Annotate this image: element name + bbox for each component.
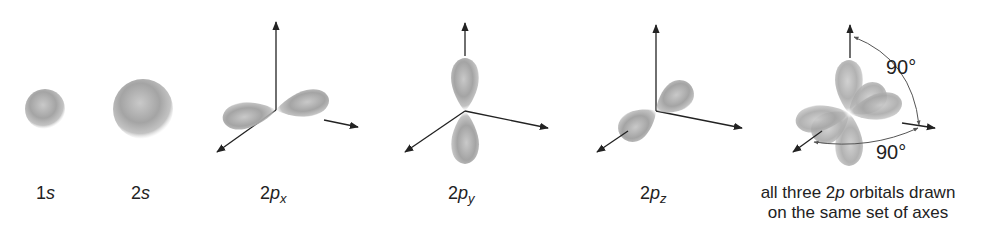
orbital-2py — [405, 23, 548, 164]
orbital-1s — [25, 89, 65, 129]
orbital-2s — [113, 79, 173, 139]
combined-caption: all three 2p orbitals drawn on the same … — [733, 183, 983, 223]
orbital-2px — [217, 22, 358, 152]
label-2py: 2py — [448, 183, 475, 203]
label-2pz: 2pz — [640, 183, 667, 203]
axes — [217, 22, 276, 152]
caption-line-2: on the same set of axes — [733, 203, 983, 223]
label-2s: 2s — [131, 183, 150, 203]
caption-line-1: all three 2p orbitals drawn — [733, 183, 983, 203]
label-1s: 1s — [36, 183, 55, 203]
angle-label-bottom: 90° — [876, 141, 906, 164]
angle-label-top: 90° — [886, 56, 916, 79]
orbital-2pz — [597, 25, 742, 152]
label-2px: 2px — [260, 183, 287, 203]
orbital-combined — [793, 25, 935, 166]
